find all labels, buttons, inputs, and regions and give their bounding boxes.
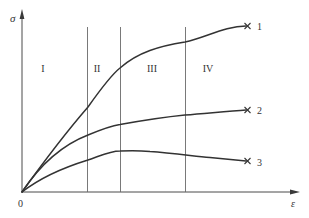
region-label-iii: III <box>147 63 157 74</box>
stress-strain-diagram: σ ε 0 I II III IV 1 2 3 <box>0 0 309 218</box>
y-axis-label: σ <box>10 12 16 24</box>
curve-1: 1 <box>22 21 262 192</box>
y-axis-arrow-icon <box>20 9 25 19</box>
region-label-iv: IV <box>203 63 214 74</box>
x-axis <box>22 190 300 195</box>
region-dividers <box>88 27 186 192</box>
origin-label: 0 <box>18 198 23 209</box>
curve-2-label: 2 <box>257 105 262 116</box>
region-label-ii: II <box>94 63 101 74</box>
region-label-i: I <box>41 63 44 74</box>
x-axis-label: ε <box>291 198 295 209</box>
curve-3-label: 3 <box>257 157 262 168</box>
x-axis-arrow-icon <box>290 190 300 195</box>
curve-2: 2 <box>22 105 262 192</box>
y-axis <box>20 9 25 192</box>
curve-3: 3 <box>22 151 262 192</box>
curve-1-label: 1 <box>257 21 262 32</box>
